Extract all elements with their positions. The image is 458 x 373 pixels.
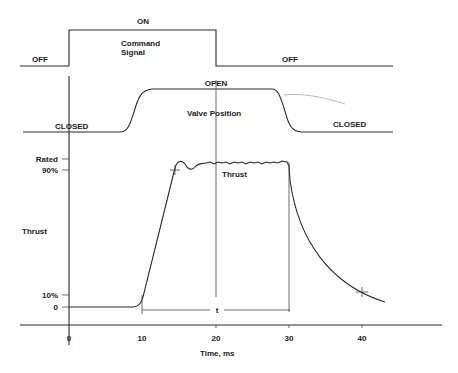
marker-10-percent-decay [356, 287, 368, 297]
y-tick-label-rated: Rated [36, 155, 58, 164]
pencil-mark [284, 94, 345, 104]
valve-closed-left-label: CLOSED [55, 122, 89, 131]
marker-90-percent [170, 165, 180, 175]
y-tick-label-0: 0 [54, 303, 59, 312]
valve-position-title: Valve Position [187, 109, 241, 118]
timing-diagram: ON OFF OFF Command Signal OPEN CLOSED CL… [0, 0, 458, 373]
interval-t-label: t [216, 306, 219, 315]
y-tick-label-90: 90% [42, 166, 58, 175]
thrust-curve-label: Thrust [222, 170, 247, 179]
thrust-axis-label: Thrust [22, 227, 47, 236]
command-signal-trace [20, 30, 393, 66]
command-off-right-label: OFF [282, 55, 298, 64]
time-axis-label: Time, ms [200, 349, 235, 358]
x-tick-label-30: 30 [285, 334, 294, 343]
x-tick-label-0: 0 [67, 334, 72, 343]
x-tick-label-10: 10 [138, 334, 147, 343]
command-signal-title-line1: Command [121, 39, 160, 48]
valve-closed-right-label: CLOSED [333, 120, 367, 129]
command-off-left-label: OFF [32, 55, 48, 64]
command-on-label: ON [137, 17, 149, 26]
command-signal-title-line2: Signal [121, 48, 145, 57]
x-tick-label-20: 20 [212, 334, 221, 343]
y-tick-label-10: 10% [42, 291, 58, 300]
x-tick-label-40: 40 [358, 334, 367, 343]
thrust-trace [69, 161, 385, 307]
